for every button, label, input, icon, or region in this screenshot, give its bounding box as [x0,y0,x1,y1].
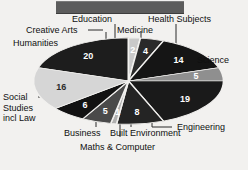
label-medicine: Medicine [117,25,153,35]
label-creative-arts: Creative Arts [26,25,78,35]
slice-value: 6 [82,100,87,110]
label-health-subjects: Health Subjects [148,14,211,24]
slice-value: 1 [115,107,120,117]
label-humanities: Humanities [13,38,58,48]
slice-value: 4 [143,46,148,56]
label-social-studies: Social Studies incl Law [3,92,39,124]
slice-value: 5 [103,106,108,116]
label-education: Education [72,14,112,24]
label-maths-computer: Maths & Computer [80,142,155,152]
slice-value: 5 [194,71,199,81]
label-built-environment: Built Environment [110,128,181,138]
slice-value: 19 [180,94,190,104]
chart-canvas: 202414519815616 Education Health Subject… [0,0,248,170]
slice-value: 8 [135,107,140,117]
slice-value: 14 [173,55,183,65]
label-engineering: Engineering [177,122,225,132]
slice-value: 16 [56,82,66,92]
label-science: Science [197,55,229,65]
label-business: Business [64,128,101,138]
slice-value: 20 [83,51,93,61]
slice-value: 2 [130,45,135,55]
